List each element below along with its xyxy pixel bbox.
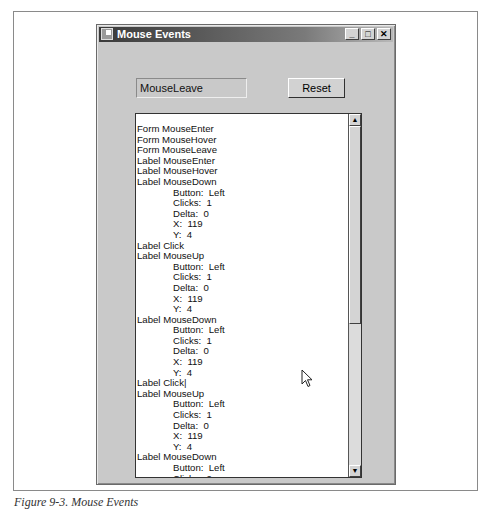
app-icon[interactable] xyxy=(101,28,113,40)
list-item[interactable]: Y: 4 xyxy=(137,230,225,241)
mouse-events-window: Mouse Events _ □ ✕ MouseLeave Reset Form… xyxy=(96,24,396,485)
scroll-down-button[interactable]: ▼ xyxy=(349,465,361,477)
list-item[interactable]: Clicks: 2 xyxy=(137,474,225,478)
list-item[interactable]: Button: Left xyxy=(137,463,225,474)
event-log-listbox[interactable]: Form MouseEnterForm MouseHoverForm Mouse… xyxy=(135,113,362,478)
reset-button[interactable]: Reset xyxy=(288,78,345,98)
list-item[interactable]: Label MouseDown xyxy=(137,177,225,188)
scroll-thumb[interactable] xyxy=(349,126,361,324)
minimize-button[interactable]: _ xyxy=(345,28,359,40)
scroll-up-button[interactable]: ▲ xyxy=(349,114,361,126)
maximize-button[interactable]: □ xyxy=(361,28,375,40)
vertical-scrollbar[interactable]: ▲ ▼ xyxy=(348,114,361,477)
title-bar[interactable]: Mouse Events _ □ ✕ xyxy=(99,27,393,42)
list-item[interactable]: Delta: 0 xyxy=(137,283,225,294)
mouse-pointer-icon xyxy=(301,369,315,389)
close-button[interactable]: ✕ xyxy=(377,28,391,40)
list-item[interactable]: Form MouseEnter xyxy=(137,124,225,135)
window-title: Mouse Events xyxy=(117,27,191,42)
event-log-items: Form MouseEnterForm MouseHoverForm Mouse… xyxy=(137,124,225,478)
figure-caption: Figure 9-3. Mouse Events xyxy=(14,495,138,509)
status-label: MouseLeave xyxy=(136,78,247,98)
